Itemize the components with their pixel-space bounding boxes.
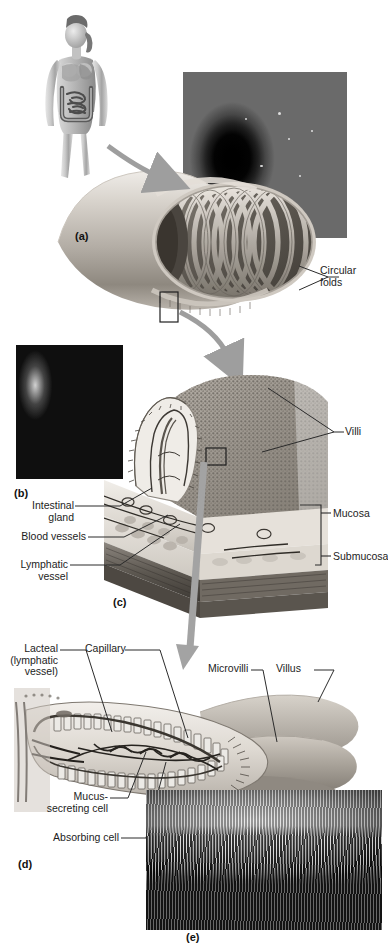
panel-label-b: (b) bbox=[14, 487, 28, 499]
label-lacteal: Lacteal (lymphatic vessel) bbox=[0, 643, 58, 678]
label-lymphatic-vessel: Lymphatic vessel bbox=[0, 559, 68, 582]
panel-label-c: (c) bbox=[113, 596, 126, 608]
label-mucosa: Mucosa bbox=[333, 508, 370, 520]
label-blood-vessels: Blood vessels bbox=[0, 531, 86, 543]
label-intestinal-gland: Intestinal gland bbox=[0, 500, 74, 523]
label-mucus-secreting-cell: Mucus- secreting cell bbox=[0, 791, 108, 814]
panel-label-e: (e) bbox=[186, 931, 199, 943]
label-capillary: Capillary bbox=[85, 643, 126, 655]
label-absorbing-cell: Absorbing cell bbox=[0, 832, 119, 844]
label-submucosa: Submucosa bbox=[333, 551, 388, 563]
intestine-tube-illustration bbox=[56, 150, 326, 330]
intestinal-wall-block bbox=[104, 368, 334, 622]
label-villi: Villi bbox=[345, 426, 361, 438]
panel-label-d: (d) bbox=[18, 858, 32, 870]
label-villus: Villus bbox=[276, 663, 301, 675]
label-circular-folds: Circular folds bbox=[320, 265, 356, 288]
sem-microvilli-photo bbox=[146, 790, 382, 930]
panel-label-a: (a) bbox=[75, 230, 88, 242]
label-microvilli: Microvilli bbox=[208, 663, 248, 675]
